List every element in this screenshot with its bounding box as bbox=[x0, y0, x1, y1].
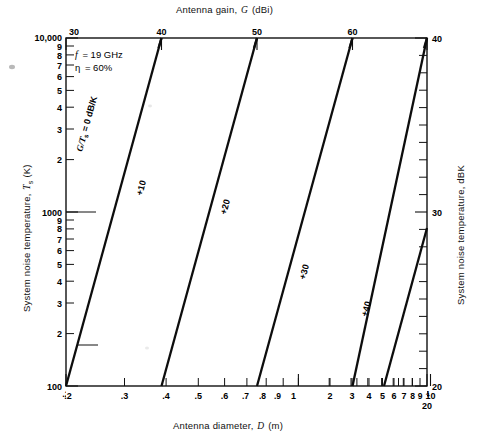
x-tick-label-9: 9 bbox=[418, 391, 423, 401]
y-tick-label: 4 bbox=[57, 277, 62, 287]
y-tick-label: 4 bbox=[57, 103, 62, 113]
y-tick-label: 5 bbox=[57, 86, 62, 96]
right-tick-label: 20 bbox=[432, 382, 442, 392]
nomograph-figure: Antenna gain, G (dBi) Antenna diameter, … bbox=[0, 0, 482, 441]
x-tick-label-4: 4 bbox=[366, 391, 371, 401]
x-tick-label-6: 6 bbox=[391, 391, 396, 401]
x-tick-label-07: .7 bbox=[242, 391, 249, 401]
top-axis-title: Antenna gain, G (dBi) bbox=[176, 4, 273, 15]
annotation-frequency: f = 19 GHz bbox=[75, 49, 123, 60]
x-tick-label-06: .6 bbox=[221, 391, 229, 401]
x-tick-label-08: .8 bbox=[259, 391, 266, 401]
x-tick-label-3: 3 bbox=[349, 391, 354, 401]
right-tick-label: 30 bbox=[432, 208, 442, 218]
top-tick-label: 50 bbox=[252, 27, 262, 37]
top-tick-label: 30 bbox=[69, 27, 79, 37]
x-tick-label-20: 20 bbox=[422, 401, 432, 411]
x-tick-label-04: .4 bbox=[162, 391, 170, 401]
x-tick-label-03: .3 bbox=[121, 391, 129, 401]
y-tick-label: 6 bbox=[57, 72, 62, 82]
y-tick-label: 2 bbox=[57, 329, 62, 339]
y-tick-label: 2 bbox=[57, 155, 62, 165]
scan-speck bbox=[148, 105, 152, 108]
left-axis-title: System noise temperature, Ts (K) bbox=[21, 164, 34, 312]
y-tick-label: 100 bbox=[47, 382, 62, 392]
x-tick-label-09: .9 bbox=[274, 391, 281, 401]
x-tick-label-02: .2 bbox=[64, 391, 72, 401]
x-tick-label-2: 2 bbox=[327, 391, 332, 401]
bottom-axis-title: Antenna diameter, D (m) bbox=[173, 420, 283, 431]
top-tick-label: 60 bbox=[347, 27, 357, 37]
scan-speck bbox=[9, 65, 15, 69]
y-tick-label: 8 bbox=[57, 51, 62, 61]
scan-speck bbox=[145, 347, 149, 350]
x-tick-label-10: 10 bbox=[425, 391, 435, 401]
chart-svg: Antenna gain, G (dBi) Antenna diameter, … bbox=[0, 0, 482, 441]
right-tick-label: 40 bbox=[432, 34, 442, 44]
y-tick-label: 7 bbox=[57, 235, 62, 245]
y-tick-label: 5 bbox=[57, 260, 62, 270]
y-tick-label: 7 bbox=[57, 61, 62, 71]
right-axis-title: System noise temperature, dBK bbox=[455, 165, 466, 305]
x-tick-label-05: .5 bbox=[195, 391, 203, 401]
x-tick-label-7: 7 bbox=[401, 391, 406, 401]
top-tick-label: 40 bbox=[156, 27, 166, 37]
y-tick-label: 6 bbox=[57, 246, 62, 256]
y-tick-label: 3 bbox=[57, 299, 62, 309]
y-tick-label: 3 bbox=[57, 125, 62, 135]
x-tick-label-8: 8 bbox=[410, 391, 415, 401]
x-tick-label-1: 1 bbox=[291, 391, 296, 401]
y-tick-label: 8 bbox=[57, 224, 62, 234]
x-tick-label-5: 5 bbox=[380, 391, 385, 401]
